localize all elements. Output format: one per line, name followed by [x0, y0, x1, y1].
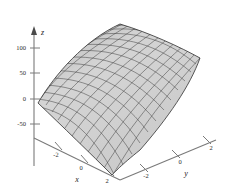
y-tick-label--2: -2	[143, 172, 148, 179]
y-tick-label-0: 0	[178, 158, 181, 165]
z-axis-label: z	[40, 28, 45, 37]
z-axis-arrow	[31, 26, 37, 35]
z-axis-ticks	[30, 48, 40, 124]
z-tick-label-50: 50	[20, 69, 27, 76]
x-axis-label: x	[74, 175, 79, 184]
plot-canvas: 100 50 0 -50 z -2 0 2 x -2 0 2 y	[0, 0, 227, 192]
x-tick-label-2: 2	[105, 177, 108, 184]
y-tick-label-2: 2	[209, 144, 212, 151]
z-tick-label--50: -50	[17, 120, 26, 127]
y-axis-ticks	[140, 136, 211, 172]
z-tick-label-0: 0	[23, 95, 26, 102]
x-tick-label--2: -2	[53, 151, 59, 158]
surface-plot-figure: 100 50 0 -50 z -2 0 2 x -2 0 2 y	[0, 0, 227, 192]
x-tick-label-0: 0	[79, 164, 82, 171]
y-axis-label: y	[183, 169, 188, 178]
z-tick-label-100: 100	[16, 44, 26, 51]
y-tick-2	[203, 136, 211, 144]
